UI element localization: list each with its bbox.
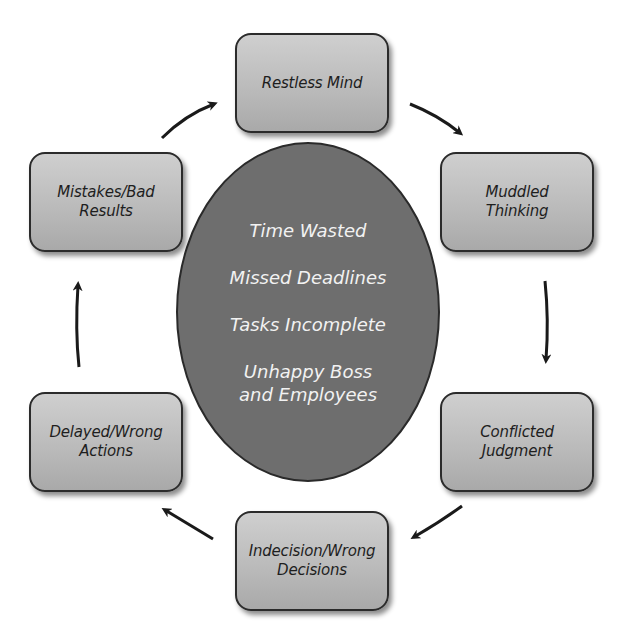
node-label: Conflicted Judgment <box>480 423 554 461</box>
center-item-unhappy-boss: Unhappy Boss and Employees <box>239 360 377 406</box>
arrow-muddled-to-conflicted <box>545 281 547 360</box>
node-restless-mind: Restless Mind <box>235 33 389 133</box>
arrow-restless-to-muddled <box>410 104 460 133</box>
arrow-delayed-to-mistakes <box>77 285 79 367</box>
node-label: Restless Mind <box>262 74 363 93</box>
center-item-tasks-incomplete: Tasks Incomplete <box>230 313 386 336</box>
node-conflicted-judgment: Conflicted Judgment <box>440 392 594 492</box>
center-ellipse: Time Wasted Missed Deadlines Tasks Incom… <box>176 142 440 482</box>
center-item-missed-deadlines: Missed Deadlines <box>230 266 387 289</box>
node-label: Delayed/Wrong Actions <box>49 423 162 461</box>
arrow-conflicted-to-indecision <box>414 506 462 537</box>
node-delayed-wrong-actions: Delayed/Wrong Actions <box>29 392 183 492</box>
center-item-time-wasted: Time Wasted <box>249 219 366 242</box>
node-mistakes-bad-results: Mistakes/Bad Results <box>29 152 183 252</box>
arrow-indecision-to-delayed <box>165 510 213 539</box>
arrow-mistakes-to-restless <box>162 104 214 138</box>
node-label: Mistakes/Bad Results <box>57 183 154 221</box>
node-label: Indecision/Wrong Decisions <box>249 542 376 580</box>
node-muddled-thinking: Muddled Thinking <box>440 152 594 252</box>
node-indecision-wrong-decisions: Indecision/Wrong Decisions <box>235 511 389 611</box>
node-label: Muddled Thinking <box>485 183 548 221</box>
